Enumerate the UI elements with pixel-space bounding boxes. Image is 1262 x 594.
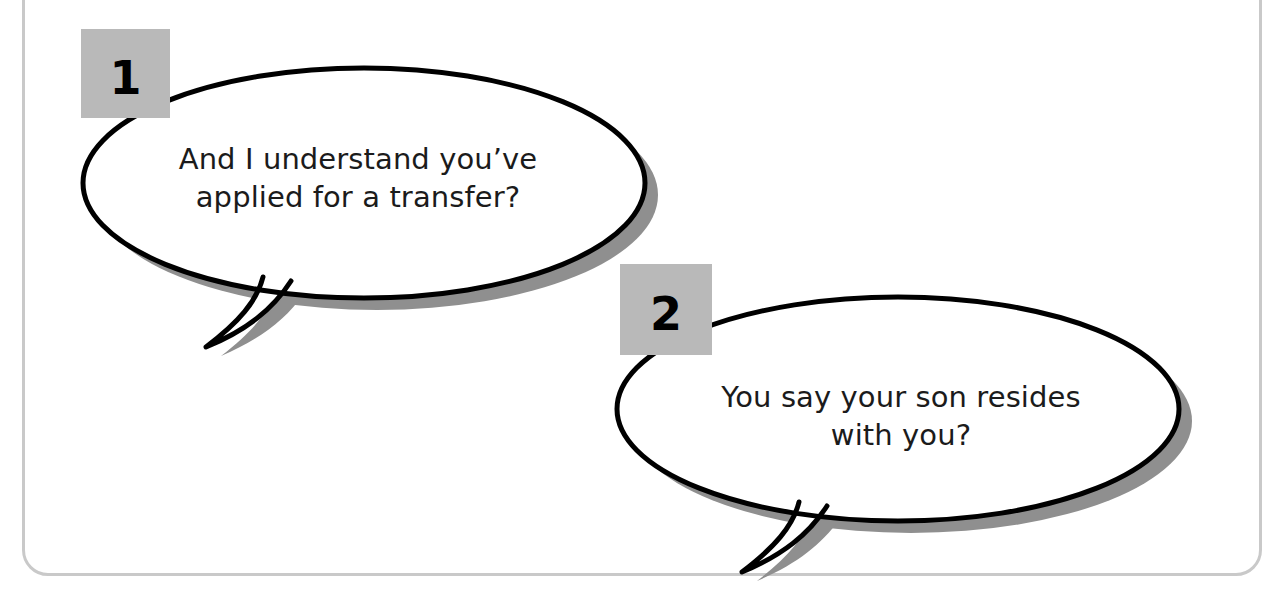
bubble-number-badge-2: 2 xyxy=(620,264,712,355)
bubble-number-badge-1: 1 xyxy=(81,29,170,118)
bubble-2-text: You say your son resides with you? xyxy=(672,378,1130,455)
bubble-1-text: And I understand you’ve applied for a tr… xyxy=(128,140,588,217)
